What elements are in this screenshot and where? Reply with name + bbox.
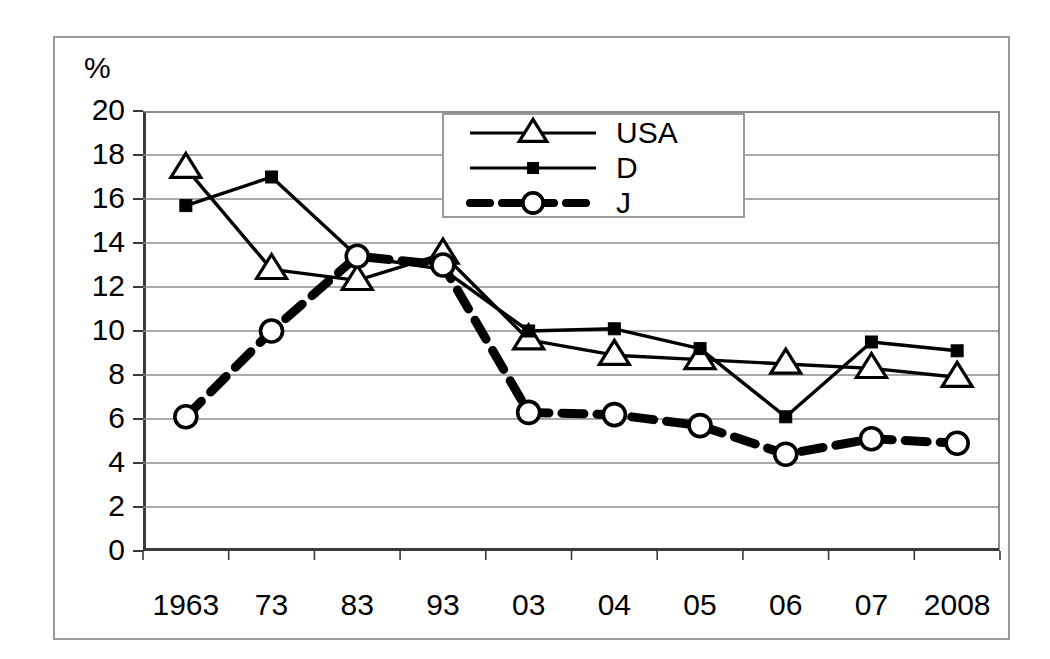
legend-sample-icon bbox=[466, 151, 600, 185]
legend-item-j: J bbox=[444, 185, 743, 220]
y-axis-unit-label: % bbox=[84, 53, 111, 83]
legend-swatch-d bbox=[466, 151, 600, 185]
y-axis-tick-label: 12 bbox=[53, 271, 125, 301]
legend-swatch-usa bbox=[466, 116, 600, 150]
chart-figure: % 20181614121086420 19637383930304050607… bbox=[0, 0, 1050, 659]
marker-square bbox=[527, 162, 538, 173]
y-axis-tick-label: 0 bbox=[53, 535, 125, 565]
y-axis-tick-label: 14 bbox=[53, 227, 125, 257]
legend-item-usa: USA bbox=[444, 115, 743, 150]
y-axis-tick-label: 8 bbox=[53, 359, 125, 389]
legend-sample-icon bbox=[466, 186, 600, 220]
legend-swatch-j bbox=[466, 186, 600, 220]
legend-label: D bbox=[616, 153, 638, 183]
y-axis-tick-label: 4 bbox=[53, 447, 125, 477]
y-axis-tick-label: 16 bbox=[53, 183, 125, 213]
y-axis-tick-label: 10 bbox=[53, 315, 125, 345]
marker-triangle bbox=[519, 119, 547, 141]
y-axis-tick-label: 6 bbox=[53, 403, 125, 433]
chart-legend: USADJ bbox=[442, 113, 745, 218]
marker-circle bbox=[523, 192, 543, 212]
legend-label: J bbox=[616, 188, 631, 218]
x-axis-tick-label: 2008 bbox=[897, 590, 1017, 620]
y-axis-tick-label: 20 bbox=[53, 95, 125, 125]
legend-item-d: D bbox=[444, 150, 743, 185]
y-axis-tick-label: 2 bbox=[53, 491, 125, 521]
legend-sample-icon bbox=[466, 116, 600, 150]
y-axis-tick-label: 18 bbox=[53, 139, 125, 169]
legend-label: USA bbox=[616, 118, 678, 148]
